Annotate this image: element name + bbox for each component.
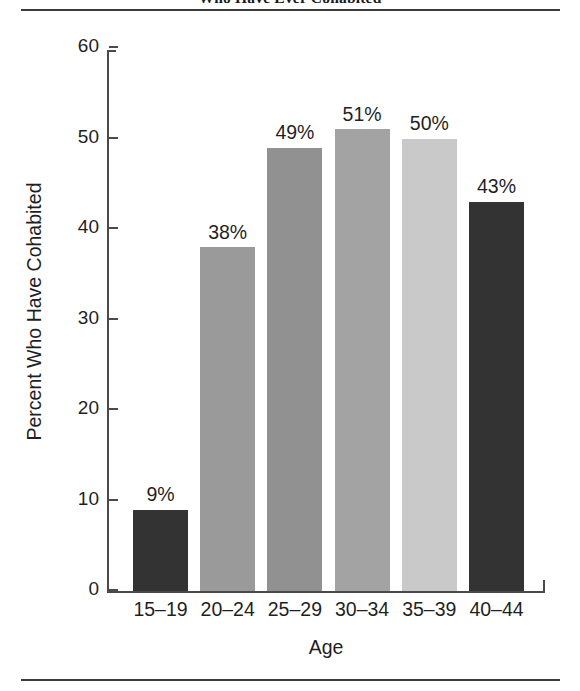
bar[interactable] — [402, 139, 457, 592]
y-axis-tick-label: 40 — [78, 217, 99, 236]
x-axis-category-label: 25–29 — [268, 600, 322, 620]
bar[interactable] — [469, 202, 524, 591]
bar-value-label: 51% — [343, 105, 382, 125]
y-axis-tick-label: 60 — [78, 36, 99, 55]
bar[interactable] — [133, 510, 188, 591]
x-axis-category-label: 40–44 — [469, 600, 523, 620]
y-axis-title: Percent Who Have Cohabited — [23, 152, 46, 472]
chart-plot-area: 0102030405060 9%15–1938%20–2449%25–2951%… — [107, 50, 545, 593]
bar-group: 49%25–29 — [267, 148, 322, 591]
bar-value-label: 43% — [477, 177, 516, 197]
x-axis-category-label: 30–34 — [335, 600, 389, 620]
bar-series: 9%15–1938%20–2449%25–2951%30–3450%35–394… — [109, 50, 545, 591]
y-axis-tick-label: 50 — [78, 127, 99, 146]
bar-value-label: 50% — [410, 114, 449, 134]
bar-group: 51%30–34 — [335, 129, 390, 591]
bar[interactable] — [267, 148, 322, 591]
x-axis-line — [107, 591, 545, 593]
y-axis-tick: 60 — [109, 46, 118, 48]
figure-title: Who Have Ever Cohabited — [20, 0, 560, 7]
bar-group: 43%40–44 — [469, 202, 524, 591]
bottom-divider-rule — [21, 679, 560, 681]
bar-value-label: 49% — [275, 123, 314, 143]
bar-group: 50%35–39 — [402, 139, 457, 592]
bar[interactable] — [200, 247, 255, 591]
x-axis-category-label: 15–19 — [133, 600, 187, 620]
y-axis-tick-label: 30 — [78, 308, 99, 327]
x-axis-category-label: 20–24 — [201, 600, 255, 620]
bar-group: 9%15–19 — [133, 510, 188, 591]
bar[interactable] — [335, 129, 390, 591]
x-axis-title: Age — [107, 636, 545, 659]
top-divider-rule — [21, 9, 560, 11]
bar-group: 38%20–24 — [200, 247, 255, 591]
y-axis-tick-label: 20 — [78, 398, 99, 417]
bar-value-label: 9% — [146, 485, 174, 505]
y-axis-tick-label: 0 — [88, 579, 99, 598]
bar-value-label: 38% — [208, 223, 247, 243]
y-axis-tick-label: 10 — [78, 489, 99, 508]
x-axis-category-label: 35–39 — [402, 600, 456, 620]
